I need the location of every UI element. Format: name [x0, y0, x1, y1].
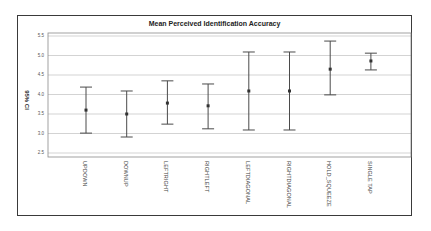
gridlines — [48, 36, 411, 153]
y-tick-label: 4.5 — [24, 72, 44, 77]
x-tick-label: UPDOWN — [82, 161, 88, 187]
error-bar — [161, 81, 173, 124]
x-tick-label: SINGLE TAP — [367, 161, 373, 194]
y-tick-label: 5.0 — [24, 53, 44, 58]
x-tick-label: LEFTDIAGONAL — [245, 161, 251, 204]
y-tick-label: 5.5 — [24, 33, 44, 38]
plot-border — [48, 33, 411, 157]
x-tick-label: HOLD_SQUEEZE — [326, 161, 332, 207]
x-tick-label: LEFTRIGHT — [163, 161, 169, 192]
y-tick-label: 3.0 — [24, 131, 44, 136]
x-tick-label: DOWNUP — [123, 161, 129, 187]
error-bar — [202, 84, 214, 129]
error-bar — [243, 52, 255, 130]
plot-area — [0, 0, 431, 231]
x-tick-label: RIGHTLEFT — [204, 161, 210, 192]
y-tick-label: 3.5 — [24, 111, 44, 116]
error-bar — [284, 52, 296, 130]
y-tick-label: 4.0 — [24, 92, 44, 97]
error-bar — [324, 41, 336, 95]
y-tick-label: 2.5 — [24, 150, 44, 155]
x-tick-label: RIGHTDIAGONAL — [286, 161, 292, 208]
error-bar — [80, 87, 92, 133]
